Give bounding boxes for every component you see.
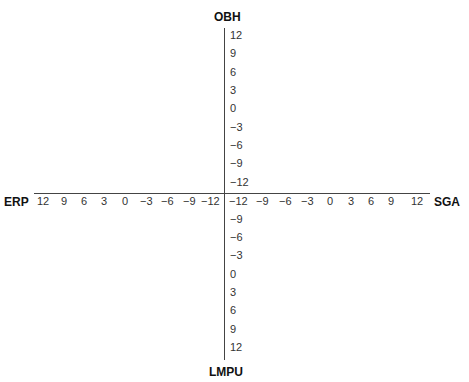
tick-h-right: 12 [411,195,423,207]
tick-v-lower: −3 [230,249,243,261]
tick-h-right: 3 [348,195,354,207]
tick-v-upper: 9 [230,47,236,59]
tick-h-left: 9 [61,195,67,207]
tick-h-left: 12 [37,195,49,207]
axis-label-left: ERP [4,195,29,209]
tick-v-upper: 3 [230,84,236,96]
tick-h-left: −9 [183,195,196,207]
axis-label-bottom: LMPU [209,365,243,379]
tick-v-upper: 12 [230,29,242,41]
tick-v-lower: 12 [230,341,242,353]
tick-v-lower: 3 [230,286,236,298]
tick-h-left: −12 [201,195,220,207]
tick-h-left: 3 [101,195,107,207]
tick-h-left: −3 [140,195,153,207]
tick-v-lower: 9 [230,323,236,335]
tick-v-upper: −9 [230,157,243,169]
horizontal-axis-line [34,193,430,194]
vertical-axis-line [224,28,225,360]
tick-v-upper: −3 [230,121,243,133]
axis-label-top: OBH [214,10,241,24]
tick-v-lower: −6 [230,231,243,243]
tick-h-right: 0 [327,195,333,207]
tick-h-right: −9 [256,195,269,207]
tick-v-upper: 6 [230,66,236,78]
tick-v-upper: 0 [230,102,236,114]
tick-v-lower: −9 [230,213,243,225]
tick-h-left: −6 [161,195,174,207]
tick-h-right: 6 [368,195,374,207]
tick-h-right: −3 [301,195,314,207]
tick-v-upper: −12 [230,176,249,188]
tick-h-left: 6 [81,195,87,207]
tick-h-right: 9 [388,195,394,207]
axis-label-right: SGA [434,195,460,209]
tick-h-left: 0 [122,195,128,207]
tick-v-lower: 0 [230,268,236,280]
tick-h-right: −12 [229,195,248,207]
tick-h-right: −6 [279,195,292,207]
tick-v-upper: −6 [230,139,243,151]
tick-v-lower: 6 [230,304,236,316]
